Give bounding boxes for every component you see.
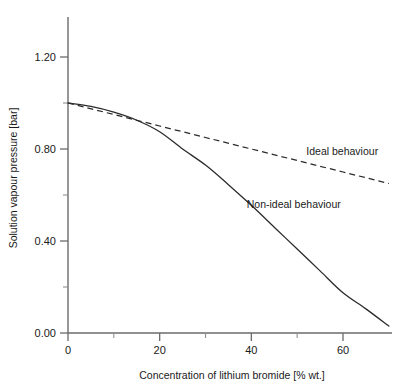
chart-svg: 0.000.400.801.20 0204060 Ideal behaviour…: [0, 0, 405, 391]
vapour-pressure-chart: 0.000.400.801.20 0204060 Ideal behaviour…: [0, 0, 405, 391]
y-tick-label: 0.80: [35, 143, 56, 155]
y-tick-label: 0.40: [35, 235, 56, 247]
y-tick-label: 0.00: [35, 327, 56, 339]
x-tick-label: 60: [337, 344, 349, 356]
series-annotation-label: Non-ideal behaviour: [247, 198, 341, 210]
y-tick-label: 1.20: [35, 51, 56, 63]
series-annotation-label: Ideal behaviour: [306, 145, 378, 157]
x-tick-label: 0: [65, 344, 71, 356]
x-axis-title: Concentration of lithium bromide [% wt.]: [139, 369, 325, 381]
x-tick-label: 20: [154, 344, 166, 356]
y-axis-title: Solution vapour pressure [bar]: [7, 108, 19, 249]
x-tick-label: 40: [245, 344, 257, 356]
